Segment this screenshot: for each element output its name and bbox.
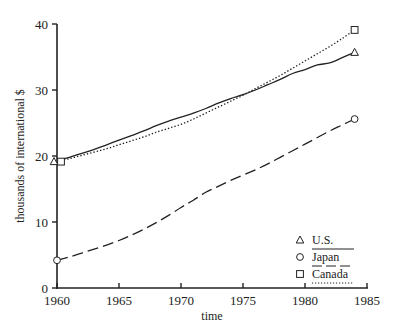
y-tick-label: 10 — [35, 215, 48, 230]
triangle-legend-icon — [296, 236, 304, 243]
y-tick-label: 30 — [35, 83, 48, 98]
series-line — [57, 52, 355, 160]
legend-label: U.S. — [312, 233, 333, 247]
y-tick-label: 20 — [35, 149, 48, 164]
x-tick-label: 1980 — [292, 293, 318, 308]
circle-legend-icon — [297, 254, 304, 261]
legend-label: Canada — [312, 267, 349, 281]
x-axis: 196019651970197519801985 — [44, 283, 380, 308]
square-legend-icon — [297, 271, 304, 278]
legend-label: Japan — [312, 250, 339, 264]
line-chart: 010203040 196019651970197519801985 thous… — [0, 0, 394, 334]
series-canada — [57, 27, 358, 165]
x-tick-label: 1970 — [168, 293, 194, 308]
legend-item-us: U.S. — [296, 233, 354, 249]
y-axis-title: thousands of international $ — [13, 89, 27, 223]
circle-marker-icon — [54, 257, 61, 264]
triangle-marker-icon — [351, 48, 359, 55]
series-us — [50, 48, 358, 164]
x-tick-label: 1985 — [354, 293, 380, 308]
series-line — [57, 119, 355, 260]
x-axis-title: time — [201, 309, 222, 323]
square-marker-icon — [58, 158, 65, 165]
legend-item-canada: Canada — [297, 267, 354, 283]
legend: U.S.JapanCanada — [296, 233, 354, 283]
y-axis: 010203040 — [35, 17, 57, 296]
circle-marker-icon — [351, 116, 358, 123]
x-tick-label: 1975 — [230, 293, 256, 308]
square-marker-icon — [351, 27, 358, 34]
legend-item-japan: Japan — [297, 250, 354, 266]
x-tick-label: 1960 — [44, 293, 70, 308]
y-tick-label: 40 — [35, 17, 48, 32]
x-tick-label: 1965 — [106, 293, 132, 308]
series-layer — [50, 27, 358, 264]
